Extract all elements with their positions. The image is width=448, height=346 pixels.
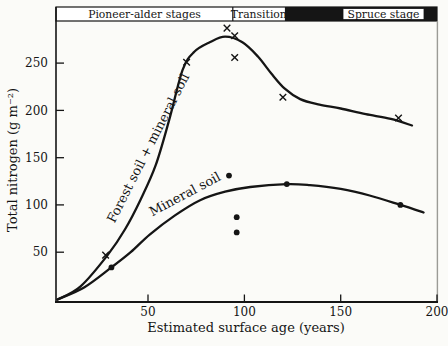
x-axis-title: Estimated surface age (years): [147, 320, 345, 335]
x-tick-label: 150: [329, 305, 352, 319]
data-curves: [58, 37, 424, 300]
x-marker: [231, 54, 238, 61]
stage-label-pioneer: Pioneer-alder stages: [88, 8, 201, 21]
stage-label-spruce: Spruce stage: [348, 8, 420, 21]
dot-marker: [398, 202, 404, 208]
dot-marker: [234, 230, 240, 236]
nitrogen-succession-chart: Pioneer-alder stages Transition Spruce s…: [0, 0, 448, 346]
x-marker: [280, 94, 287, 101]
y-tick-label: 250: [25, 56, 48, 70]
forest-soil-curve: [58, 37, 413, 300]
x-tick-label: 50: [140, 305, 155, 319]
y-tick-label: 200: [25, 104, 48, 118]
dot-marker: [284, 181, 290, 187]
dot-marker: [226, 173, 232, 179]
y-tick-label: 50: [33, 245, 48, 259]
stage-bar: Pioneer-alder stages Transition Spruce s…: [56, 7, 437, 21]
y-tick-label: 150: [25, 151, 48, 165]
plot-frame: [55, 7, 438, 302]
stage-label-transition: Transition: [231, 8, 287, 21]
x-marker: [224, 25, 231, 32]
dot-marker: [109, 265, 115, 271]
curve-label-mineral-soil: Mineral soil: [147, 169, 223, 219]
x-tick-label: 100: [233, 305, 256, 319]
x-tick-label: 200: [426, 305, 448, 319]
y-tick-label: 100: [25, 198, 48, 212]
dot-marker: [234, 214, 240, 220]
y-axis-title: Total nitrogen (g m⁻²): [5, 88, 20, 232]
